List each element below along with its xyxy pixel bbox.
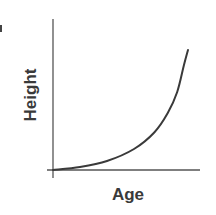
y-axis-label: Height (21, 68, 40, 121)
chart: Age Height (0, 0, 216, 215)
x-axis-label: Age (112, 185, 144, 204)
data-curve (53, 50, 188, 170)
